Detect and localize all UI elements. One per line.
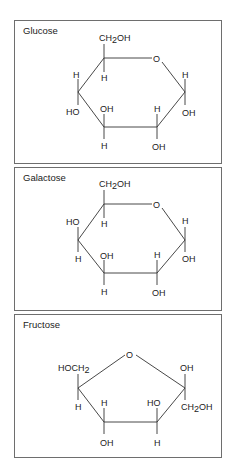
fructose-c2-oh: OH [180,363,194,373]
fructose-c4-oh: OH [100,438,114,448]
fructose-ring-oxygen: O [126,350,133,360]
fructose-c4-h: H [101,398,108,408]
fructose-c3-h: H [154,438,161,448]
fructose-c6-label: HOCH2 [58,363,90,375]
fructose-c1-label: CH2OH [181,402,213,414]
fructose-c3-ho: HO [147,398,161,408]
fructose-structure: O HOCH2 H H OH HO H OH CH2OH [0,0,234,474]
fructose-c5-h: H [75,402,82,412]
